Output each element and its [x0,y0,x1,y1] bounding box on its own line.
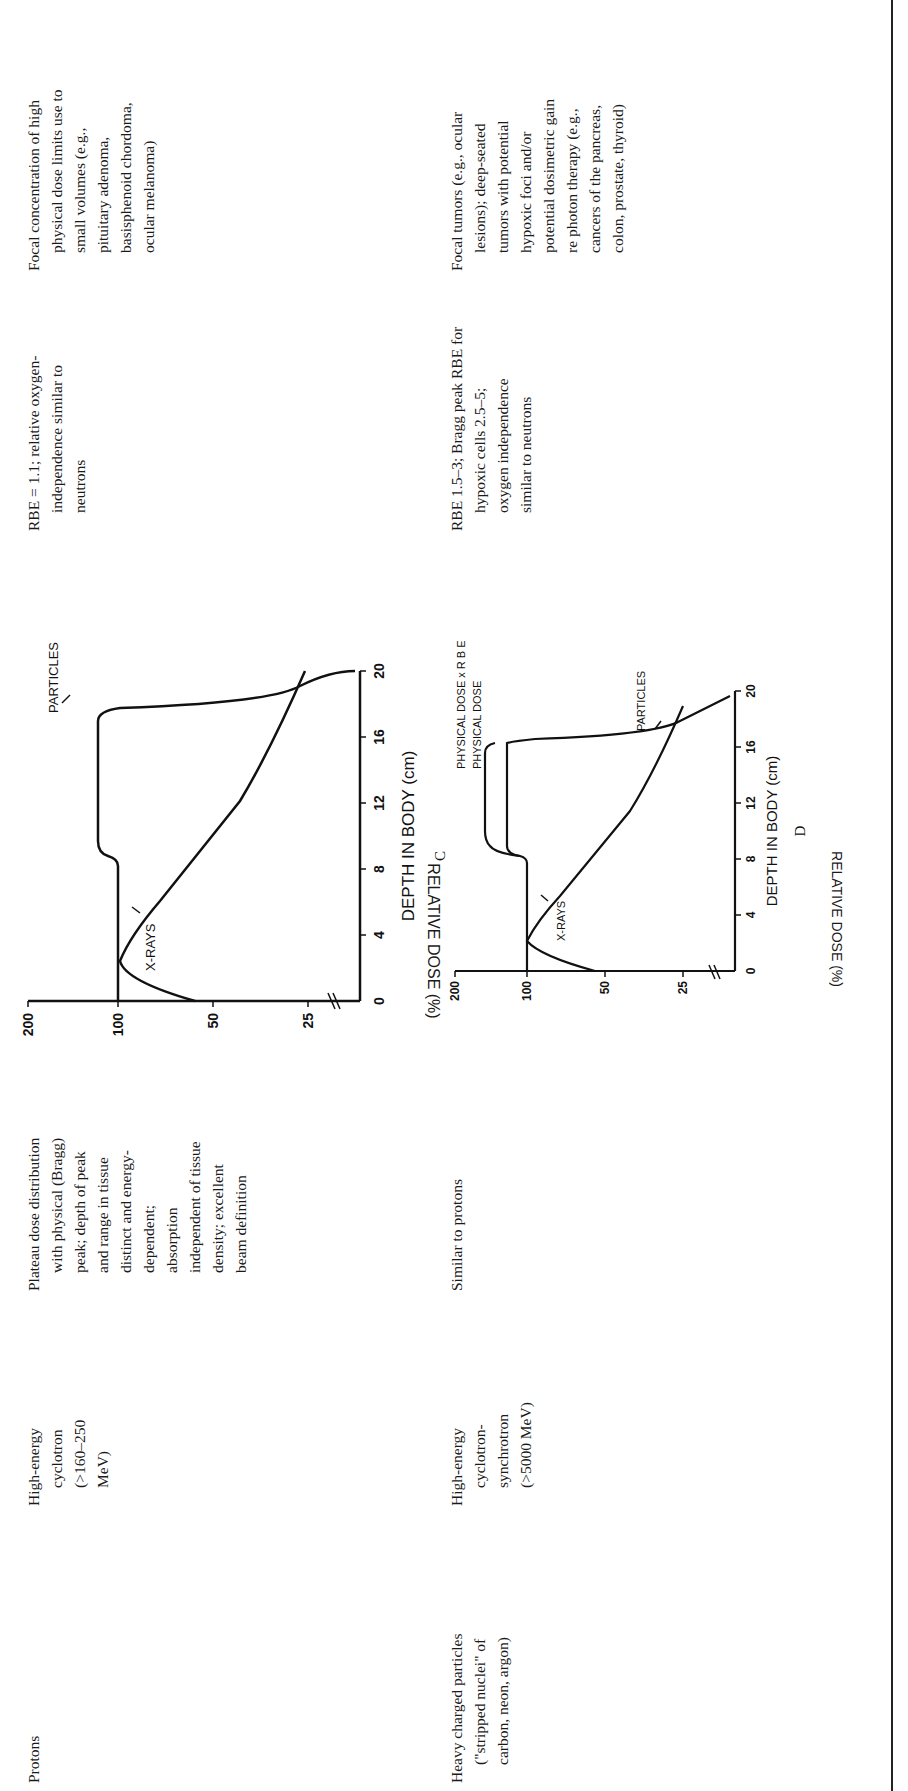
svg-text:12: 12 [371,795,387,811]
svg-text:DEPTH IN BODY (cm): DEPTH IN BODY (cm) [399,751,418,922]
svg-text:4: 4 [744,911,758,918]
row1-biological: RBE = 1.1; relative oxygen- independence… [22,356,91,531]
row2-physical: Similar to protons [445,1179,468,1291]
svg-text:0: 0 [371,997,387,1005]
svg-text:PHYSICAL DOSE: PHYSICAL DOSE [471,681,483,769]
svg-text:DEPTH IN BODY (cm): DEPTH IN BODY (cm) [763,756,780,907]
row1-particle: Protons [22,1736,45,1783]
svg-text:50: 50 [598,981,612,995]
figure-d-ylabel: RELATIVE DOSE (%) [825,839,848,999]
svg-text:200: 200 [20,1013,36,1037]
figure-d-plot: 200 100 50 25 0 4 8 12 16 20 X-RAYS PHYS… [445,631,815,991]
svg-text:12: 12 [744,796,758,810]
row1-physical: Plateau dose distribution with physical … [22,1138,252,1291]
figure-c: 200 100 50 25 0 4 8 12 16 20 X-RAYS PART… [20,631,450,1031]
rotated-table-page: Protons High-energy cyclotron (>160–250 … [0,0,908,1791]
svg-text:X-RAYS: X-RAYS [555,901,567,941]
row2-clinical: Focal tumors (e.g., ocular lesions); dee… [445,99,629,271]
svg-text:X-RAYS: X-RAYS [143,923,158,971]
figure-c-ylabel: RELATIVE DOSE (%) [422,851,445,1031]
svg-text:16: 16 [371,729,387,745]
svg-text:0: 0 [744,967,758,974]
svg-text:50: 50 [205,1013,221,1029]
svg-text:D: D [792,825,808,836]
svg-text:8: 8 [744,855,758,862]
row2-biological: RBE 1.5–3; Bragg peak RBE for hypoxic ce… [445,327,537,531]
svg-text:20: 20 [744,684,758,698]
row1-clinical: Focal concentration of high physical dos… [22,89,160,271]
svg-text:25: 25 [676,981,690,995]
svg-text:16: 16 [744,740,758,754]
svg-text:PARTICLES: PARTICLES [635,671,647,731]
row2-particle: Heavy charged particles ("stripped nucle… [445,1634,514,1783]
svg-text:PHYSICAL DOSE x R B E: PHYSICAL DOSE x R B E [455,640,467,769]
figure-c-plot: 200 100 50 25 0 4 8 12 16 20 X-RAYS PART… [20,631,450,1031]
svg-text:8: 8 [371,865,387,873]
svg-text:4: 4 [371,931,387,939]
row2-source: High-energy cyclotron- synchrotron (>500… [445,1402,537,1506]
svg-text:25: 25 [300,1013,316,1029]
row1-source: High-energy cyclotron (>160–250 MeV) [22,1420,114,1506]
figure-d: 200 100 50 25 0 4 8 12 16 20 X-RAYS PHYS… [445,631,815,991]
svg-text:100: 100 [520,981,534,1001]
svg-text:200: 200 [448,981,462,1001]
svg-text:20: 20 [371,663,387,679]
svg-text:PARTICLES: PARTICLES [46,642,61,713]
bottom-table-rule [891,0,893,1791]
svg-text:100: 100 [110,1013,126,1037]
